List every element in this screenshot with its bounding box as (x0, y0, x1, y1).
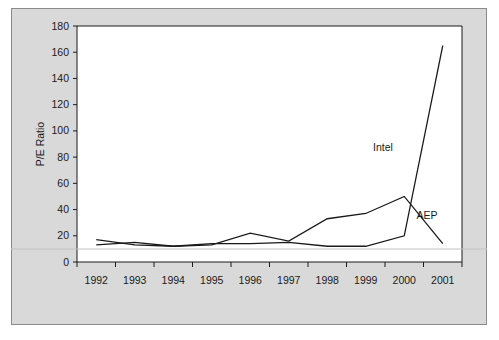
x-axis-tick-labels: 1992199319941995199619971998199920002001 (85, 274, 455, 286)
x-axis-ticks (77, 262, 462, 267)
y-axis-ticks (73, 26, 77, 262)
y-tick-label: 140 (51, 72, 69, 84)
x-tick-label-1992: 1992 (85, 274, 109, 286)
y-tick-label: 40 (57, 203, 69, 215)
y-axis-title: P/E Ratio (34, 122, 46, 167)
x-tick-label-1996: 1996 (239, 274, 263, 286)
series-label-intel: Intel (373, 141, 393, 153)
y-tick-label: 20 (57, 229, 69, 241)
x-tick-label-1993: 1993 (123, 274, 147, 286)
pe-ratio-line-chart: 020406080100120140160180 199219931994199… (0, 0, 499, 340)
x-tick-label-1999: 1999 (354, 274, 378, 286)
y-tick-label: 60 (57, 177, 69, 189)
x-tick-label-1998: 1998 (316, 274, 340, 286)
y-axis-tick-labels: 020406080100120140160180 (51, 20, 69, 268)
plot-area-background (77, 26, 462, 262)
y-tick-label: 160 (51, 46, 69, 58)
y-tick-label: 120 (51, 98, 69, 110)
x-tick-label-1995: 1995 (200, 274, 224, 286)
y-tick-label: 80 (57, 151, 69, 163)
x-tick-label-1994: 1994 (162, 274, 186, 286)
y-tick-label: 0 (63, 256, 69, 268)
x-tick-label-2000: 2000 (393, 274, 417, 286)
series-label-aep: AEP (416, 209, 437, 221)
y-tick-label: 100 (51, 124, 69, 136)
y-tick-label: 180 (51, 20, 69, 32)
x-tick-label-1997: 1997 (277, 274, 301, 286)
x-tick-label-2001: 2001 (431, 274, 455, 286)
